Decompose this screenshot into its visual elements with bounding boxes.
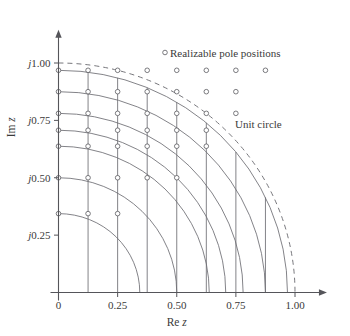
x-tick-label-100: 1.00 [285, 299, 305, 311]
y-axis-title-var: z [5, 117, 17, 123]
x-tick-label-025: 0.25 [108, 299, 128, 311]
pole-marker [204, 144, 209, 149]
annotations: Realizable pole positions Unit circle [163, 47, 282, 131]
y-axis-title: Im z [5, 117, 17, 138]
y-tick-num-075: 0.75 [31, 114, 51, 126]
y-axis-arrowhead [55, 30, 61, 38]
pole-marker [115, 211, 120, 216]
constant-radius-arc [59, 113, 244, 292]
pole-marker [145, 128, 150, 133]
y-tick-num-100: 1.00 [31, 57, 51, 69]
pole-marker [86, 211, 91, 216]
tick-marks [54, 63, 295, 297]
y-tick-label-025: j0.25 [26, 229, 51, 241]
unit-circle-label: Unit circle [235, 118, 282, 130]
pole-marker [86, 111, 91, 116]
pole-marker [174, 175, 179, 180]
y-tick-label-050: j0.50 [26, 172, 51, 184]
pole-marker [263, 68, 268, 73]
y-tick-num-050: 0.50 [31, 172, 51, 184]
x-axis-title: Re z [167, 316, 188, 328]
x-axis-arrowhead [319, 289, 327, 295]
pole-marker [115, 111, 120, 116]
pole-position-figure: 0 0.25 0.50 0.75 1.00 j0.25 j0.50 j0.75 … [0, 0, 350, 336]
y-tick-num-025: 0.25 [31, 229, 51, 241]
pole-marker [145, 68, 150, 73]
pole-marker [145, 111, 150, 116]
pole-marker [115, 175, 120, 180]
y-tick-label-100: j1.00 [26, 57, 51, 69]
pole-marker [86, 68, 91, 73]
pole-marker [174, 128, 179, 133]
y-tick-label-075: j0.75 [26, 114, 51, 126]
pole-marker [86, 128, 91, 133]
pole-marker [145, 144, 150, 149]
x-axis-title-var: z [181, 316, 187, 328]
legend-label: Realizable pole positions [170, 47, 281, 59]
constant-radius-arc [59, 214, 140, 293]
tick-labels: 0 0.25 0.50 0.75 1.00 j0.25 j0.50 j0.75 … [26, 57, 305, 311]
pole-marker [174, 111, 179, 116]
z-plane-plot: 0 0.25 0.50 0.75 1.00 j0.25 j0.50 j0.75 … [0, 0, 350, 336]
pole-marker [204, 89, 209, 94]
legend-circle-icon [163, 50, 168, 55]
x-tick-label-0: 0 [56, 299, 62, 311]
pole-marker [115, 144, 120, 149]
pole-marker [234, 68, 239, 73]
pole-marker [86, 175, 91, 180]
pole-marker [115, 68, 120, 73]
pole-marker [145, 89, 150, 94]
x-axis-title-prefix: Re [167, 316, 183, 328]
pole-marker [115, 89, 120, 94]
pole-marker [234, 111, 239, 116]
pole-marker [115, 128, 120, 133]
x-tick-label-050: 0.50 [167, 299, 187, 311]
pole-marker [204, 111, 209, 116]
pole-marker [174, 68, 179, 73]
pole-marker [204, 68, 209, 73]
pole-marker [174, 89, 179, 94]
quantization-grid [59, 70, 288, 292]
pole-marker [86, 89, 91, 94]
pole-marker [174, 144, 179, 149]
x-tick-label-075: 0.75 [226, 299, 246, 311]
constant-radius-arc [59, 146, 210, 292]
constant-radius-arc [59, 70, 288, 292]
pole-marker [145, 175, 150, 180]
pole-marker [234, 89, 239, 94]
pole-marker [86, 144, 91, 149]
pole-marker [204, 128, 209, 133]
y-axis-title-prefix: Im [5, 122, 17, 138]
